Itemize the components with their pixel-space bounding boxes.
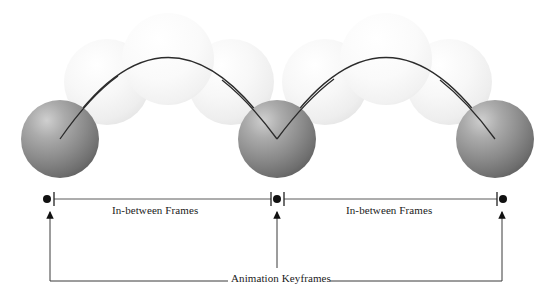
keyframe-marker-dot-right [499, 195, 507, 203]
keyframe-marker-dot-center [273, 195, 281, 203]
inbetween-balls-right-group [282, 13, 492, 125]
animation-keyframes-figure: In-between Frames In-between Frames Anim… [0, 0, 554, 300]
inbetween-balls-left-group [64, 13, 274, 125]
inbetween-ball-5 [340, 13, 432, 105]
figure-canvas [0, 0, 554, 300]
label-inbetween-frames-right: In-between Frames [346, 204, 432, 216]
inbetween-ball-2 [122, 13, 214, 105]
keyframe-bracket-group [50, 212, 502, 281]
label-animation-keyframes: Animation Keyframes [231, 272, 331, 284]
keyframe-marker-dot-left [43, 195, 51, 203]
label-inbetween-frames-left: In-between Frames [112, 204, 198, 216]
